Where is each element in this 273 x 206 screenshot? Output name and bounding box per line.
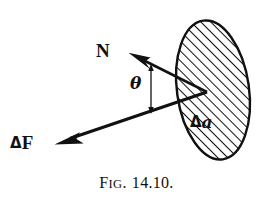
caption-smallcaps: IG [109,177,123,191]
force-delta-glyph: Δ [10,134,22,152]
figure-caption: FIG.14.10. [0,174,273,192]
area-a-glyph: a [202,112,213,132]
figure-container: N ΔF θ Δa FIG.14.10. [0,0,273,206]
area-delta-glyph: Δ [190,113,202,131]
angle-marker [148,64,154,114]
force-f-glyph: F [22,132,34,153]
angle-theta-label: θ [130,75,141,92]
normal-vector-label: N [96,41,110,60]
caption-number: 14.10. [132,174,174,191]
force-vector-label: ΔF [10,133,34,152]
caption-period: . [123,174,127,191]
caption-lead-letter: F [99,174,108,191]
area-element-ellipse [168,10,265,175]
area-element-label: Δa [190,114,213,131]
